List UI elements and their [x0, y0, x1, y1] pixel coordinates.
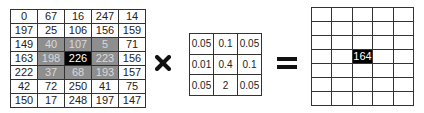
kernel-row: 0.050.10.05: [190, 34, 262, 55]
input-row: 2223768193157: [11, 66, 146, 80]
output-empty-cell: [332, 36, 352, 50]
output-empty-cell: [393, 22, 413, 36]
output-empty-cell: [312, 92, 332, 106]
output-row: [312, 22, 414, 36]
output-empty-cell: [373, 92, 393, 106]
input-cell: 17: [38, 94, 65, 108]
output-empty-cell: [332, 64, 352, 78]
output-empty-cell: [393, 36, 413, 50]
input-cell: 75: [119, 80, 146, 94]
input-center-cell: 226: [65, 52, 92, 66]
kernel-cell: 0.05: [238, 34, 262, 55]
input-cell: 16: [65, 10, 92, 24]
output-empty-cell: [312, 64, 332, 78]
output-row: [312, 78, 414, 92]
output-empty-cell: [352, 64, 372, 78]
kernel-matrix: 0.050.10.050.010.40.10.0520.05: [189, 33, 262, 96]
output-empty-cell: [373, 50, 393, 64]
input-cell: 157: [119, 66, 146, 80]
kernel-cell: 0.05: [238, 75, 262, 96]
input-neighborhood-cell: 107: [65, 38, 92, 52]
input-cell: 0: [11, 10, 38, 24]
output-row: 164: [312, 50, 414, 64]
output-empty-cell: [312, 22, 332, 36]
input-cell: 156: [92, 24, 119, 38]
output-empty-cell: [393, 8, 413, 22]
equals-icon: [277, 57, 297, 69]
output-empty-cell: [393, 50, 413, 64]
kernel-cell: 0.05: [190, 34, 214, 55]
input-cell: 163: [11, 52, 38, 66]
output-empty-cell: [352, 22, 372, 36]
output-empty-cell: [332, 92, 352, 106]
input-neighborhood-cell: 5: [92, 38, 119, 52]
output-empty-cell: [373, 8, 393, 22]
input-cell: 197: [11, 24, 38, 38]
output-empty-cell: [352, 92, 372, 106]
input-cell: 72: [38, 80, 65, 94]
kernel-cell: 0.05: [190, 75, 214, 96]
input-cell: 222: [11, 66, 38, 80]
input-cell: 147: [119, 94, 146, 108]
output-empty-cell: [312, 50, 332, 64]
output-empty-cell: [393, 92, 413, 106]
output-row: [312, 36, 414, 50]
input-cell: 67: [38, 10, 65, 24]
output-empty-cell: [352, 36, 372, 50]
kernel-cell: 2: [214, 75, 238, 96]
equals-bar-top: [277, 57, 297, 61]
input-row: 15017248197147: [11, 94, 146, 108]
output-empty-cell: [393, 78, 413, 92]
input-cell: 247: [92, 10, 119, 24]
input-neighborhood-cell: 40: [38, 38, 65, 52]
output-empty-cell: [312, 36, 332, 50]
kernel-cell: 0.1: [214, 34, 238, 55]
input-cell: 71: [119, 38, 146, 52]
input-cell: 197: [92, 94, 119, 108]
input-neighborhood-cell: 193: [92, 66, 119, 80]
output-empty-cell: [352, 78, 372, 92]
output-empty-cell: [312, 8, 332, 22]
input-cell: 25: [38, 24, 65, 38]
output-empty-cell: [393, 64, 413, 78]
input-row: 14940107571: [11, 38, 146, 52]
output-row: [312, 92, 414, 106]
input-row: 163198226223156: [11, 52, 146, 66]
input-neighborhood-cell: 68: [65, 66, 92, 80]
output-empty-cell: [373, 78, 393, 92]
output-empty-cell: [332, 8, 352, 22]
input-matrix: 0671624714197251061561591494010757116319…: [10, 9, 146, 108]
output-empty-cell: [332, 78, 352, 92]
input-cell: 14: [119, 10, 146, 24]
input-cell: 41: [92, 80, 119, 94]
kernel-cell: 0.01: [190, 54, 214, 75]
input-cell: 150: [11, 94, 38, 108]
input-cell: 106: [65, 24, 92, 38]
multiply-icon: [155, 55, 171, 71]
output-row: [312, 8, 414, 22]
output-empty-cell: [373, 64, 393, 78]
input-cell: 248: [65, 94, 92, 108]
kernel-cell: 0.1: [238, 54, 262, 75]
kernel-row: 0.0520.05: [190, 75, 262, 96]
output-empty-cell: [373, 22, 393, 36]
input-cell: 149: [11, 38, 38, 52]
input-cell: 156: [119, 52, 146, 66]
input-row: 0671624714: [11, 10, 146, 24]
kernel-cell: 0.4: [214, 54, 238, 75]
output-matrix: 164: [311, 7, 414, 106]
equals-bar-bottom: [277, 65, 297, 69]
kernel-row: 0.010.40.1: [190, 54, 262, 75]
output-empty-cell: [373, 36, 393, 50]
input-row: 19725106156159: [11, 24, 146, 38]
output-row: [312, 64, 414, 78]
input-cell: 250: [65, 80, 92, 94]
input-cell: 42: [11, 80, 38, 94]
output-result-cell: 164: [352, 50, 372, 64]
output-empty-cell: [352, 8, 372, 22]
input-neighborhood-cell: 37: [38, 66, 65, 80]
output-empty-cell: [332, 50, 352, 64]
input-neighborhood-cell: 223: [92, 52, 119, 66]
input-neighborhood-cell: 198: [38, 52, 65, 66]
input-row: 42722504175: [11, 80, 146, 94]
